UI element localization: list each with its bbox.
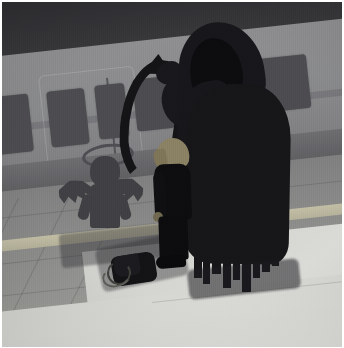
boy-shoes xyxy=(156,255,187,270)
reaper-robe xyxy=(184,83,291,265)
boy-legs xyxy=(158,216,189,261)
illustration-canvas xyxy=(0,0,344,348)
backpack xyxy=(102,252,158,292)
matte-border-left xyxy=(0,0,2,348)
angel-body xyxy=(90,184,120,228)
matte-border-top xyxy=(0,0,344,2)
artwork xyxy=(2,2,342,347)
boy-arm xyxy=(153,172,167,219)
train-window xyxy=(46,88,90,148)
boy-figure xyxy=(150,138,198,270)
